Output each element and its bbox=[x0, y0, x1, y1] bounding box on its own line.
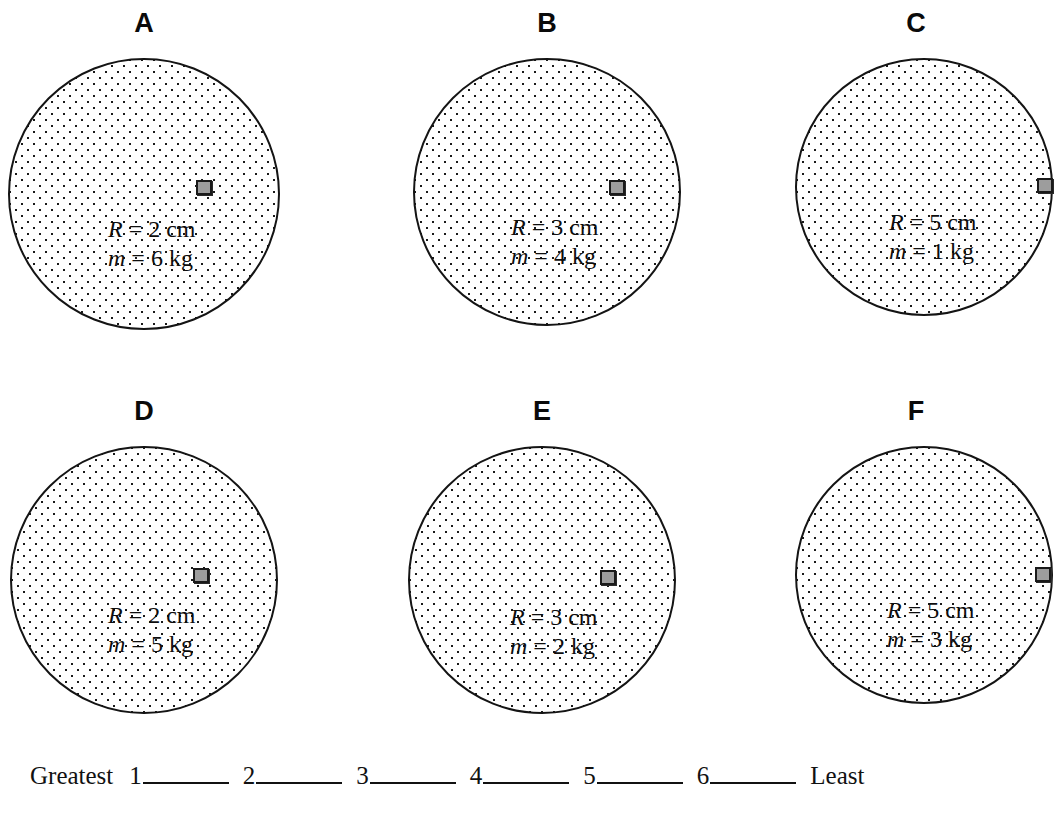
ranking-greatest-label: Greatest bbox=[28, 761, 115, 791]
disk-d: R = 2 cm m = 5 kg bbox=[10, 446, 278, 714]
panel-e: E R = 3 cm m = 2 kg bbox=[408, 396, 676, 731]
mass-symbol-f: m bbox=[887, 626, 904, 652]
ranking-number-6: 6 bbox=[683, 761, 710, 791]
disk-a: R = 2 cm m = 6 kg bbox=[8, 58, 280, 330]
mass-block-c bbox=[1037, 178, 1053, 193]
radius-label-d: R = 2 cm bbox=[108, 601, 196, 630]
mass-label-e: m = 2 kg bbox=[510, 632, 598, 661]
radius-symbol-c: R bbox=[889, 209, 904, 235]
disk-b: R = 3 cm m = 4 kg bbox=[413, 58, 681, 326]
ranking-slot-2: 2 bbox=[229, 760, 343, 791]
mass-label-f: m = 3 kg bbox=[887, 625, 975, 654]
ranking-blank-1[interactable] bbox=[143, 760, 229, 784]
ranking-blank-3[interactable] bbox=[370, 760, 456, 784]
ranking-number-3: 3 bbox=[342, 761, 369, 791]
mass-label-b: m = 4 kg bbox=[511, 242, 599, 271]
radius-label-b: R = 3 cm bbox=[511, 213, 599, 242]
mass-symbol-b: m bbox=[511, 243, 528, 269]
disk-caption-c: R = 5 cm m = 1 kg bbox=[889, 208, 977, 266]
mass-block-e bbox=[600, 570, 616, 585]
radius-label-f: R = 5 cm bbox=[887, 596, 975, 625]
ranking-least-label: Least bbox=[796, 761, 864, 791]
radius-label-c: R = 5 cm bbox=[889, 208, 977, 237]
radius-label-e: R = 3 cm bbox=[510, 603, 598, 632]
ranking-blank-5[interactable] bbox=[597, 760, 683, 784]
disk-caption-e: R = 3 cm m = 2 kg bbox=[510, 603, 598, 661]
panel-letter-c: C bbox=[787, 8, 1045, 38]
ranking-slot-4: 4 bbox=[456, 760, 570, 791]
disk-wrap-b: R = 3 cm m = 4 kg bbox=[413, 58, 681, 326]
radius-value-e: = 3 cm bbox=[531, 604, 598, 630]
disk-wrap-d: R = 2 cm m = 5 kg bbox=[10, 446, 278, 714]
radius-symbol-b: R bbox=[511, 214, 526, 240]
ranking-number-5: 5 bbox=[569, 761, 596, 791]
panel-letter-e: E bbox=[408, 396, 676, 426]
mass-value-c: = 1 kg bbox=[912, 238, 974, 264]
radius-value-d: = 2 cm bbox=[129, 602, 196, 628]
mass-block-b bbox=[609, 180, 625, 195]
mass-value-a: = 6 kg bbox=[131, 245, 193, 271]
panel-letter-a: A bbox=[8, 8, 280, 38]
ranking-blank-2[interactable] bbox=[256, 760, 342, 784]
radius-label-a: R = 2 cm bbox=[108, 215, 196, 244]
mass-block-a bbox=[196, 180, 212, 195]
mass-label-c: m = 1 kg bbox=[889, 237, 977, 266]
mass-value-b: = 4 kg bbox=[534, 243, 596, 269]
ranking-number-4: 4 bbox=[456, 761, 483, 791]
panel-letter-d: D bbox=[10, 396, 278, 426]
disk-wrap-e: R = 3 cm m = 2 kg bbox=[408, 446, 676, 714]
radius-symbol-a: R bbox=[108, 216, 123, 242]
ranking-slot-1: 1 bbox=[115, 760, 229, 791]
panel-f: F R = 5 cm m = 3 kg bbox=[795, 396, 1053, 731]
worksheet-sheet: A R = 2 cm m = 6 kg B R = 3 cm m = 4 kg bbox=[0, 0, 1056, 835]
mass-symbol-d: m bbox=[108, 631, 125, 657]
mass-symbol-a: m bbox=[108, 245, 125, 271]
panel-b: B R = 3 cm m = 4 kg bbox=[413, 8, 681, 338]
mass-label-a: m = 6 kg bbox=[108, 244, 196, 273]
disk-caption-f: R = 5 cm m = 3 kg bbox=[887, 596, 975, 654]
mass-symbol-c: m bbox=[889, 238, 906, 264]
panel-letter-b: B bbox=[413, 8, 681, 38]
ranking-slot-6: 6 bbox=[683, 760, 797, 791]
mass-label-d: m = 5 kg bbox=[108, 630, 196, 659]
ranking-slot-5: 5 bbox=[569, 760, 683, 791]
disk-wrap-a: R = 2 cm m = 6 kg bbox=[8, 58, 280, 330]
panel-letter-f: F bbox=[787, 396, 1045, 426]
ranking-blank-4[interactable] bbox=[483, 760, 569, 784]
radius-symbol-f: R bbox=[887, 597, 902, 623]
panel-d: D R = 2 cm m = 5 kg bbox=[10, 396, 278, 731]
mass-value-e: = 2 kg bbox=[533, 633, 595, 659]
disk-caption-b: R = 3 cm m = 4 kg bbox=[511, 213, 599, 271]
panel-a: A R = 2 cm m = 6 kg bbox=[8, 8, 280, 338]
disk-wrap-c: R = 5 cm m = 1 kg bbox=[795, 58, 1053, 316]
radius-value-b: = 3 cm bbox=[532, 214, 599, 240]
disk-wrap-f: R = 5 cm m = 3 kg bbox=[795, 446, 1053, 704]
disk-e: R = 3 cm m = 2 kg bbox=[408, 446, 676, 714]
disk-caption-d: R = 2 cm m = 5 kg bbox=[108, 601, 196, 659]
mass-block-f bbox=[1035, 567, 1051, 582]
disk-c: R = 5 cm m = 1 kg bbox=[795, 58, 1053, 316]
mass-value-d: = 5 kg bbox=[131, 631, 193, 657]
disk-f: R = 5 cm m = 3 kg bbox=[795, 446, 1053, 704]
ranking-answer-strip: Greatest 1 2 3 4 5 6 Least bbox=[28, 760, 1028, 802]
mass-symbol-e: m bbox=[510, 633, 527, 659]
radius-value-f: = 5 cm bbox=[908, 597, 975, 623]
ranking-number-2: 2 bbox=[229, 761, 256, 791]
ranking-number-1: 1 bbox=[115, 761, 142, 791]
radius-symbol-d: R bbox=[108, 602, 123, 628]
radius-symbol-e: R bbox=[510, 604, 525, 630]
panel-c: C R = 5 cm m = 1 kg bbox=[795, 8, 1053, 338]
radius-value-a: = 2 cm bbox=[129, 216, 196, 242]
radius-value-c: = 5 cm bbox=[910, 209, 977, 235]
mass-block-d bbox=[193, 568, 209, 583]
mass-value-f: = 3 kg bbox=[910, 626, 972, 652]
ranking-blank-6[interactable] bbox=[710, 760, 796, 784]
disk-caption-a: R = 2 cm m = 6 kg bbox=[108, 215, 196, 273]
ranking-slot-3: 3 bbox=[342, 760, 456, 791]
